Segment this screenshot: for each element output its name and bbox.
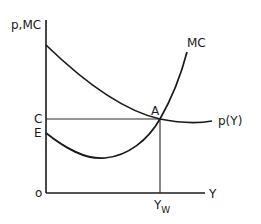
x-axis-label: Y bbox=[208, 187, 217, 201]
mc-curve-label: MC bbox=[187, 36, 206, 50]
price-level-label-c: C bbox=[34, 112, 42, 126]
y-axis-label: p,MC bbox=[11, 18, 41, 32]
output-label-yw: YW bbox=[153, 198, 170, 215]
mc-intercept-label-e: E bbox=[34, 126, 42, 140]
price-curve bbox=[46, 45, 212, 123]
price-curve-label: p(Y) bbox=[218, 114, 242, 128]
output-label-subscript: W bbox=[161, 205, 170, 215]
origin-label: o bbox=[35, 186, 42, 200]
diagram-canvas: p,MC MC C E A p(Y) o Y YW bbox=[0, 0, 261, 224]
diagram-svg: p,MC MC C E A p(Y) o Y YW bbox=[0, 0, 261, 224]
intersection-label-a: A bbox=[151, 104, 160, 118]
marginal-cost-curve bbox=[46, 52, 187, 158]
